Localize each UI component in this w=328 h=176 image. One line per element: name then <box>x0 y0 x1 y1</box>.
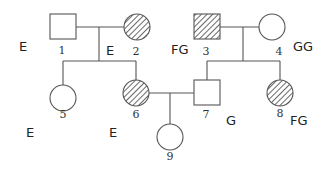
label-6: 6 <box>133 108 140 121</box>
annotation-8: FG <box>290 113 308 128</box>
individual-7-male-unaffected <box>194 80 220 105</box>
label-9: 9 <box>167 150 174 163</box>
individual-4-female-unaffected <box>259 14 285 40</box>
annotation-4: GG <box>293 39 313 54</box>
individual-3-male-affected <box>194 14 220 39</box>
annotation-1: E <box>19 39 27 54</box>
pedigree-canvas: 1 2 3 4 5 6 7 8 9 E E FG GG E E G FG <box>0 0 328 176</box>
label-2: 2 <box>133 45 140 58</box>
label-7: 7 <box>203 108 210 121</box>
label-1: 1 <box>59 44 66 57</box>
individual-9-female-unaffected <box>157 124 183 150</box>
annotation-3: FG <box>171 42 189 57</box>
annotation-2: E <box>106 43 114 58</box>
individual-6-female-affected <box>123 80 149 106</box>
annotation-5: E <box>26 125 34 140</box>
annotation-6: E <box>109 125 117 140</box>
individual-8-female-affected <box>267 80 293 106</box>
label-3: 3 <box>203 45 210 58</box>
label-5: 5 <box>60 108 67 121</box>
individual-2-female-affected <box>124 14 150 40</box>
label-4: 4 <box>276 45 283 58</box>
label-8: 8 <box>277 107 284 120</box>
individual-1-male-unaffected <box>50 14 76 39</box>
annotation-7: G <box>226 113 236 128</box>
pedigree-diagram: 1 2 3 4 5 6 7 8 9 E E FG GG E E G FG <box>0 0 328 176</box>
